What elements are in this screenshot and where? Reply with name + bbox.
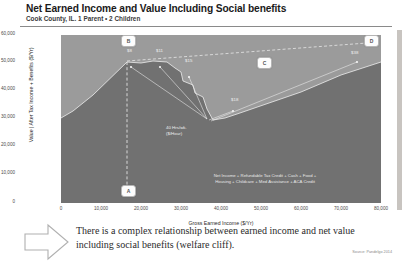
page-subtitle: Cook County, IL. 1 Parent • 2 Children <box>26 15 386 23</box>
chart-legend: Net Income + Refundable Tax Credit + Cas… <box>165 173 365 185</box>
hours-per-week-note: 40 Hrs/wk. ($/Hour) <box>166 125 236 137</box>
y-tick-50000: 50,000 <box>0 58 18 63</box>
badge-c[interactable]: C <box>257 57 272 69</box>
badge-d[interactable]: D <box>364 35 379 47</box>
x-tick-10000: 10,000 <box>81 206 121 211</box>
wage-label-38: $38 <box>351 50 358 55</box>
x-tick-50000: 50,000 <box>241 206 281 211</box>
y-tick-20000: 20,000 <box>0 142 18 147</box>
x-tick-60000: 60,000 <box>281 206 321 211</box>
y-tick-0: 0 <box>0 199 18 204</box>
right-margin-bar <box>397 30 402 210</box>
y-axis-title: Value | After Tax Income + Benefits ($/Y… <box>28 20 34 170</box>
x-tick-80000: 80,000 <box>361 206 401 211</box>
legend-line-2: Housing + Childcare + Med Assistance + A… <box>165 179 365 185</box>
x-tick-30000: 30,000 <box>161 206 201 211</box>
x-tick-20000: 20,000 <box>121 206 161 211</box>
header-divider <box>20 26 392 27</box>
source-credit: Source: Pandelgo 2014 <box>352 250 392 254</box>
x-tick-70000: 70,000 <box>321 206 361 211</box>
wage-label-15: $15 <box>185 58 192 63</box>
hours-note-line2: ($/Hour) <box>166 131 236 137</box>
summary-caption: There is a complex relationship between … <box>76 224 376 251</box>
slide-header: Net Earned Income and Value Including So… <box>26 3 386 23</box>
arrow-icon <box>24 222 70 262</box>
y-tick-10000: 10,000 <box>0 170 18 175</box>
badge-b[interactable]: B <box>121 35 136 47</box>
badge-a[interactable]: A <box>121 185 136 197</box>
chart-container: Value | After Tax Income + Benefits ($/Y… <box>12 30 390 210</box>
y-tick-40000: 40,000 <box>0 86 18 91</box>
slide: Net Earned Income and Value Including So… <box>0 0 402 271</box>
x-tick-0: 0 <box>41 206 81 211</box>
y-tick-30000: 30,000 <box>0 114 18 119</box>
y-tick-60000: 60,000 <box>0 31 18 36</box>
wage-label-11: $11 <box>156 48 163 53</box>
plot-area: $8 $11 $15 $18 $38 40 Hrs/wk. ($/Hour) N… <box>61 35 381 203</box>
page-title: Net Earned Income and Value Including So… <box>26 3 386 14</box>
wage-label-18: $18 <box>231 97 238 102</box>
wage-label-8: $8 <box>127 48 132 53</box>
x-tick-40000: 40,000 <box>201 206 241 211</box>
reference-line-horizontal <box>127 43 367 61</box>
